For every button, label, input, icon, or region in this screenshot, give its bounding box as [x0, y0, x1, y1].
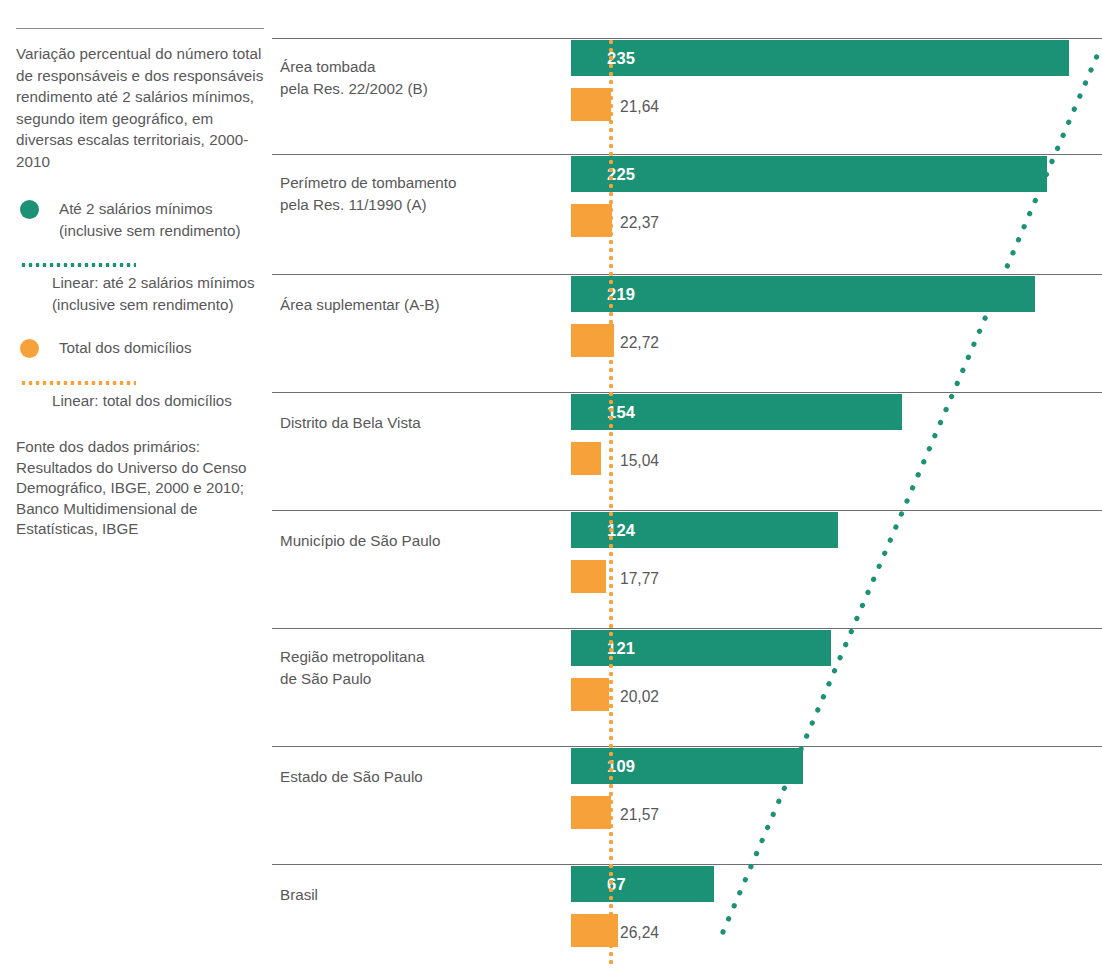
bar-orange-value: 21,57	[620, 806, 659, 824]
table-row: Estado de São Paulo 109 21,57	[272, 746, 1102, 864]
bar-orange	[571, 88, 611, 121]
row-divider	[272, 38, 1102, 39]
bar-green: 219	[571, 276, 1035, 312]
row-label: Distrito da Bela Vista	[280, 412, 421, 434]
legend-label-linear-green: Linear: até 2 salários mínimos (inclusiv…	[52, 272, 264, 315]
table-row: Distrito da Bela Vista 154 15,04	[272, 392, 1102, 510]
legend-label-linear-orange: Linear: total dos domicílios	[52, 390, 264, 412]
bar-orange-value: 22,37	[620, 214, 659, 232]
legend-item-total-domicilios: Total dos domicílios	[16, 337, 264, 359]
row-label: Área suplementar (A-B)	[280, 294, 440, 316]
chart-area: Área tombada pela Res. 22/2002 (B) 235 2…	[272, 26, 1102, 974]
bar-orange	[571, 204, 612, 237]
left-panel: Variação percentual do número total de r…	[16, 28, 264, 540]
bar-orange-value: 22,72	[620, 334, 659, 352]
legend-item-linear-total-domicilios: Linear: total dos domicílios	[16, 381, 264, 412]
bar-orange-value: 26,24	[620, 924, 659, 942]
source-note: Fonte dos dados primários: Resultados do…	[16, 437, 264, 540]
legend-dotted-line-orange-icon	[20, 381, 136, 385]
legend-item-ate-2-salarios: Até 2 salários mínimos (inclusive sem re…	[16, 198, 264, 241]
row-divider	[272, 510, 1102, 511]
row-divider	[272, 274, 1102, 275]
legend-dotted-line-green-icon	[20, 263, 136, 267]
bar-green: 235	[571, 40, 1069, 76]
legend-item-linear-ate-2-salarios: Linear: até 2 salários mínimos (inclusiv…	[16, 263, 264, 315]
row-label: Região metropolitana de São Paulo	[280, 646, 424, 689]
table-row: Perímetro de tombamento pela Res. 11/199…	[272, 154, 1102, 274]
table-row: Brasil 67 26,24	[272, 864, 1102, 974]
row-label: Estado de São Paulo	[280, 766, 423, 788]
row-divider	[272, 746, 1102, 747]
legend-label-green: Até 2 salários mínimos (inclusive sem re…	[59, 198, 264, 241]
bar-orange	[571, 678, 609, 711]
chart-caption: Variação percentual do número total de r…	[16, 43, 264, 172]
bar-orange-value: 15,04	[620, 452, 659, 470]
bar-orange-value: 21,64	[620, 98, 659, 116]
bar-orange	[571, 442, 601, 475]
bar-orange-value: 20,02	[620, 688, 659, 706]
bar-green: 154	[571, 394, 902, 430]
row-label: Área tombada pela Res. 22/2002 (B)	[280, 56, 428, 99]
trendline-total-domicilios	[609, 38, 613, 968]
bar-green: 67	[571, 866, 714, 902]
table-row: Área suplementar (A-B) 219 22,72	[272, 274, 1102, 392]
bar-orange-value: 17,77	[620, 570, 659, 588]
bar-orange	[571, 324, 614, 357]
legend-dot-orange-icon	[20, 339, 39, 358]
row-divider	[272, 392, 1102, 393]
left-panel-top-divider	[16, 28, 264, 29]
row-divider	[272, 154, 1102, 155]
table-row: Município de São Paulo 124 17,77	[272, 510, 1102, 628]
row-divider	[272, 864, 1102, 865]
table-row: Área tombada pela Res. 22/2002 (B) 235 2…	[272, 38, 1102, 154]
legend: Até 2 salários mínimos (inclusive sem re…	[16, 198, 264, 411]
legend-label-orange: Total dos domicílios	[59, 337, 192, 359]
bar-orange	[571, 560, 606, 593]
row-label: Município de São Paulo	[280, 530, 440, 552]
bar-orange	[571, 796, 611, 829]
bar-green: 225	[571, 156, 1047, 192]
chart-page: Variação percentual do número total de r…	[0, 0, 1102, 974]
table-row: Região metropolitana de São Paulo 121 20…	[272, 628, 1102, 746]
row-label: Perímetro de tombamento pela Res. 11/199…	[280, 172, 456, 215]
bar-green: 109	[571, 748, 803, 784]
row-divider	[272, 628, 1102, 629]
row-label: Brasil	[280, 884, 318, 906]
legend-dot-green-icon	[20, 200, 39, 219]
